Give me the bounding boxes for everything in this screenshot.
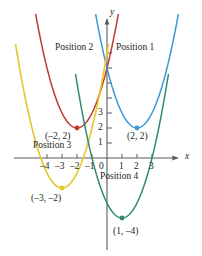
vertex-label-position-4: (1, –4) <box>113 227 138 237</box>
annotation-position-4: Position 4 <box>100 172 138 182</box>
vertex-label-position-1: (2, 2) <box>127 132 148 142</box>
curve-position-2 <box>31 0 124 128</box>
x-tick-label-minus-2: –2 <box>70 162 80 172</box>
y-tick-label-2: 2 <box>98 123 103 133</box>
y-tick-label-3: 3 <box>98 108 103 118</box>
x-tick-marks <box>47 154 152 158</box>
axis-lines <box>14 19 178 250</box>
vertex-dot-position-2 <box>75 126 80 131</box>
curve-position-4 <box>76 74 169 218</box>
vertex-dot-position-4 <box>120 216 125 221</box>
x-axis-label: x <box>185 152 189 162</box>
annotation-position-3: Position 3 <box>33 141 71 151</box>
annotation-position-1: Position 1 <box>116 43 154 53</box>
vertex-dot-position-1 <box>135 126 140 131</box>
x-tick-label-minus-4: –4 <box>40 162 50 172</box>
y-tick-label-1: 1 <box>98 138 103 148</box>
x-tick-label-3: 3 <box>149 162 154 172</box>
vertex-label-position-2: (–2, 2) <box>45 132 70 142</box>
vertex-dot-position-3 <box>60 186 65 191</box>
x-tick-label-minus-3: –3 <box>55 162 65 172</box>
annotation-position-2: Position 2 <box>55 43 93 53</box>
parabola-transformations-figure: x y –4 –3 –2 –1 0 1 2 3 1 2 3 Position 2… <box>0 0 202 256</box>
vertex-label-position-3: (–3, –2) <box>31 194 61 204</box>
y-axis-label: y <box>110 8 114 18</box>
x-tick-label-minus-1: –1 <box>85 162 95 172</box>
